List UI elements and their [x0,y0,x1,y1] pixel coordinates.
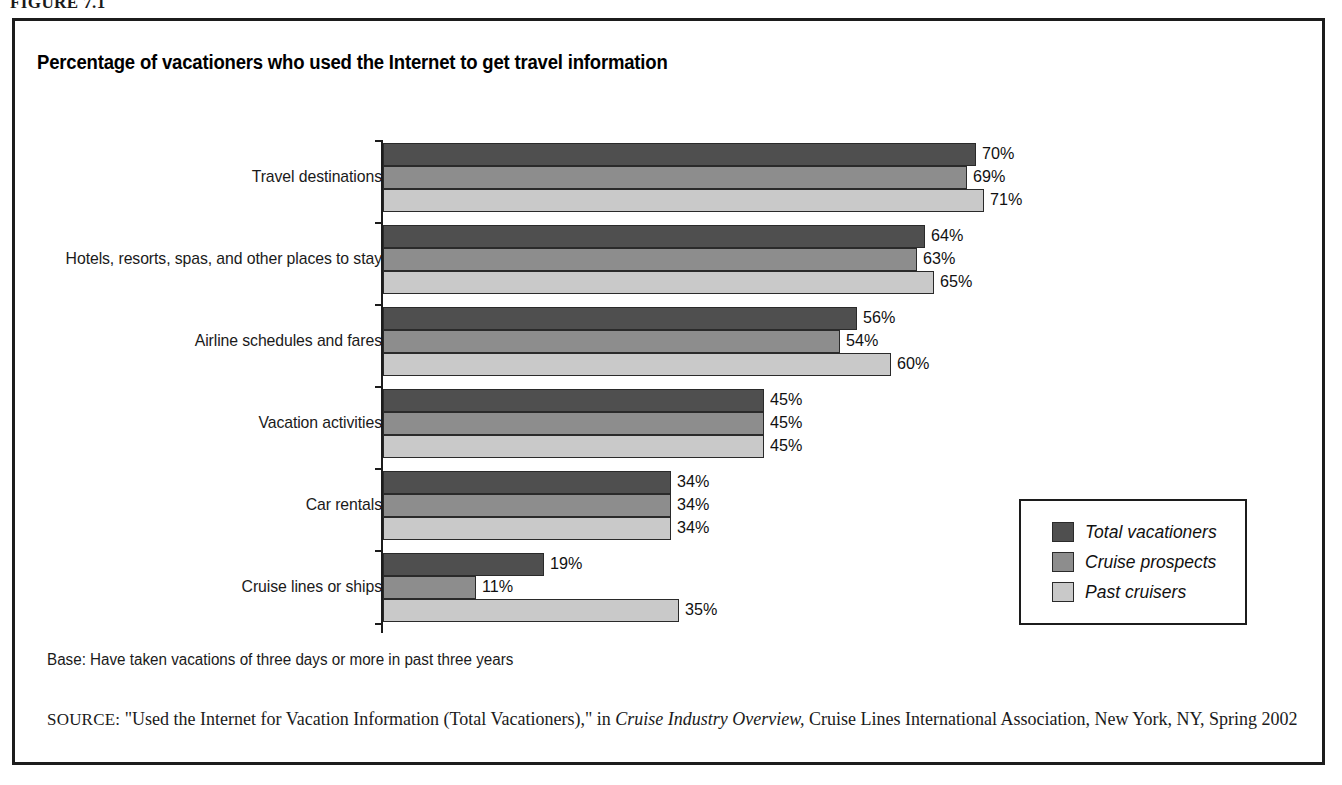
bar[interactable] [383,435,764,458]
bar-value-label: 64% [931,226,963,246]
bar-value-label: 35% [685,600,717,620]
bar-value-label: 69% [973,167,1005,187]
legend-swatch [1052,582,1074,602]
bar[interactable] [383,517,671,540]
y-axis-tick [375,550,383,552]
bar-value-label: 11% [482,577,513,597]
bar-value-label: 56% [863,308,895,328]
y-axis-tick [375,386,383,388]
category-label: Airline schedules and fares [0,331,382,351]
legend-item[interactable]: Past cruisers [1052,579,1186,605]
y-axis-tick [375,623,383,625]
bar-value-label: 65% [940,272,972,292]
legend-label: Total vacationers [1085,522,1217,543]
source-kicker: SOURCE: [47,710,120,729]
bar-value-label: 71% [990,190,1022,210]
category-label: Cruise lines or ships [0,577,382,597]
base-note: Base: Have taken vacations of three days… [47,651,513,669]
bar-value-label: 60% [897,354,929,374]
chart-title: Percentage of vacationers who used the I… [37,51,668,74]
bar[interactable] [383,330,840,353]
bar[interactable] [383,494,671,517]
legend-label: Cruise prospects [1085,552,1216,573]
source-note: SOURCE: "Used the Internet for Vacation … [47,706,1317,733]
source-text-part1: "Used the Internet for Vacation Informat… [120,709,615,729]
legend-item[interactable]: Cruise prospects [1052,549,1216,575]
bar[interactable] [383,189,984,212]
bar-value-label: 34% [677,472,709,492]
bar[interactable] [383,412,764,435]
bar[interactable] [383,271,934,294]
category-label: Car rentals [0,495,382,515]
bar-value-label: 34% [677,518,709,538]
bar[interactable] [383,248,917,271]
bar-value-label: 19% [550,554,582,574]
category-label: Hotels, resorts, spas, and other places … [0,249,382,269]
bar[interactable] [383,576,476,599]
legend-label: Past cruisers [1085,582,1186,603]
bar[interactable] [383,166,967,189]
bar[interactable] [383,225,925,248]
legend-item[interactable]: Total vacationers [1052,519,1217,545]
legend-swatch [1052,552,1074,572]
bar-value-label: 45% [770,390,802,410]
bar-value-label: 45% [770,413,802,433]
figure-frame: Percentage of vacationers who used the I… [12,18,1325,765]
category-label: Travel destinations [0,167,382,187]
y-axis-tick [375,222,383,224]
y-axis-tick [375,304,383,306]
source-text-part2: Cruise Lines International Association, … [804,709,1297,729]
source-publication-title: Cruise Industry Overview, [615,709,804,729]
bar-value-label: 45% [770,436,802,456]
bar-value-label: 34% [677,495,709,515]
y-axis-tick [375,140,383,142]
bar[interactable] [383,143,976,166]
chart-legend: Total vacationersCruise prospectsPast cr… [1019,499,1247,625]
bar-value-label: 54% [846,331,878,351]
bar-value-label: 63% [923,249,955,269]
bar[interactable] [383,471,671,494]
category-label: Vacation activities [0,413,382,433]
bar[interactable] [383,307,857,330]
figure-caption-text: FIGURE 7.1 [10,0,106,12]
bar[interactable] [383,389,764,412]
bar-value-label: 70% [982,144,1014,164]
bar[interactable] [383,599,679,622]
legend-swatch [1052,522,1074,542]
y-axis-tick [375,468,383,470]
bar[interactable] [383,353,891,376]
figure-caption: FIGURE 7.1 [10,0,106,13]
bar[interactable] [383,553,544,576]
